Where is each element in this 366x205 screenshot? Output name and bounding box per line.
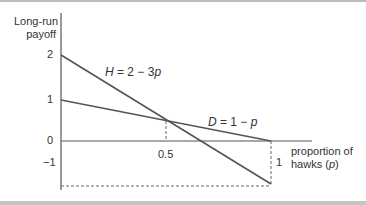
- y-tick-2: 2: [47, 48, 53, 61]
- y-axis-label-line1: Long-run: [14, 15, 56, 28]
- y-axis-label-line2: payoff: [14, 28, 56, 41]
- y-tick-0: 0: [47, 134, 53, 147]
- x-axis-label-line2: hawks (p): [291, 158, 353, 171]
- y-axis-label: Long-run payoff: [14, 15, 56, 41]
- y-tick-1: 1: [47, 93, 53, 106]
- y-tick-minus1: −1: [43, 156, 56, 169]
- x-axis-label: proportion of hawks (p): [291, 145, 353, 171]
- x-tick-half: 0.5: [158, 148, 173, 161]
- series-d-label: D = 1 − p: [208, 116, 257, 129]
- x-tick-one: 1: [276, 156, 282, 169]
- series-h-label: H = 2 − 3p: [105, 66, 161, 79]
- x-axis-label-line1: proportion of: [291, 145, 353, 158]
